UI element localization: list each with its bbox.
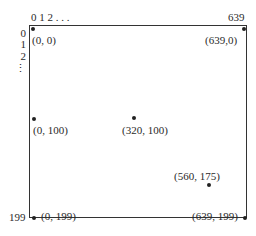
point-0-199 <box>32 216 36 220</box>
screen-frame <box>29 25 247 218</box>
point-639-0 <box>242 27 246 31</box>
label-0-199: (0, 199) <box>41 210 76 222</box>
label-560-175: (560, 175) <box>174 170 220 182</box>
y-axis-max-label: 199 <box>9 211 26 223</box>
y-axis-tick-1: 1 <box>14 38 26 50</box>
point-0-100 <box>32 117 36 121</box>
label-0-0: (0, 0) <box>32 34 56 46</box>
point-560-175 <box>207 183 211 187</box>
point-320-100 <box>132 116 136 120</box>
y-axis-tick-ellipsis: ⋮ <box>14 62 26 74</box>
point-0-0 <box>31 27 35 31</box>
x-axis-tick-labels: 0 1 2 . . . <box>31 11 70 23</box>
label-320-100: (320, 100) <box>122 124 168 136</box>
label-639-199: (639, 199) <box>192 210 238 222</box>
label-639-0: (639,0) <box>205 34 237 46</box>
x-axis-max-label: 639 <box>228 11 245 23</box>
y-axis-tick-2: 2 <box>14 50 26 62</box>
label-0-100: (0, 100) <box>33 124 68 136</box>
point-639-199 <box>243 216 247 220</box>
